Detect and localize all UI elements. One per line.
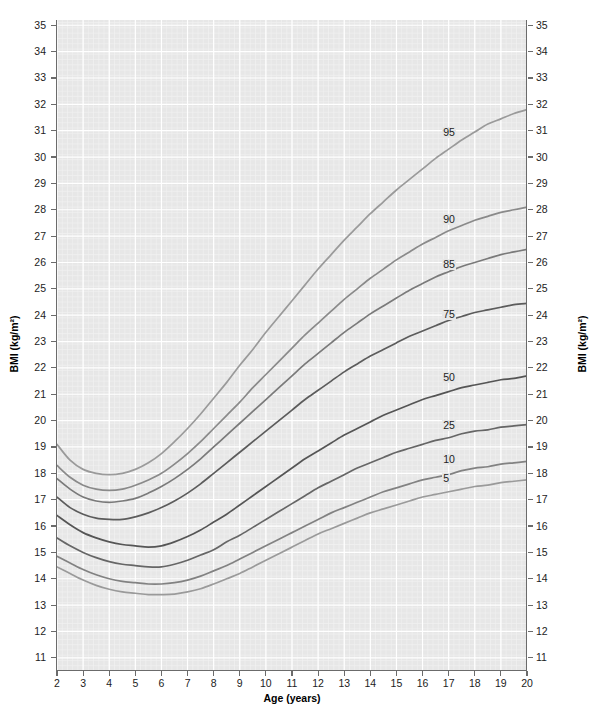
y-tick-right (528, 605, 533, 606)
y-tick-label-left: 20 (20, 415, 46, 425)
x-tick-label: 5 (124, 678, 146, 689)
x-tick-label: 2 (46, 678, 68, 689)
x-tick (135, 671, 136, 676)
percentile-label-25: 25 (442, 420, 456, 431)
y-tick-left (51, 367, 56, 368)
percentile-label-75: 75 (442, 309, 456, 320)
y-axis-left (56, 20, 57, 671)
y-tick-left (51, 156, 56, 157)
y-tick-label-right: 22 (536, 362, 562, 372)
y-tick-label-right: 18 (536, 468, 562, 478)
y-tick-left (51, 552, 56, 553)
y-tick-right (528, 394, 533, 395)
bmi-growth-chart: 1111121213131414151516161717181819192020… (0, 0, 596, 721)
y-tick-right (528, 315, 533, 316)
y-tick-label-right: 12 (536, 626, 562, 636)
x-tick-label: 18 (464, 678, 486, 689)
percentile-label-5: 5 (442, 473, 450, 484)
x-tick-label: 20 (516, 678, 538, 689)
y-tick-label-left: 32 (20, 99, 46, 109)
x-tick (265, 671, 266, 676)
y-tick-right (528, 236, 533, 237)
x-tick-label: 12 (307, 678, 329, 689)
y-tick-label-left: 13 (20, 600, 46, 610)
y-tick-right (528, 104, 533, 105)
y-tick-left (51, 130, 56, 131)
x-tick-label: 15 (385, 678, 407, 689)
y-tick-left (51, 394, 56, 395)
x-tick-label: 16 (412, 678, 434, 689)
x-tick-label: 19 (490, 678, 512, 689)
y-tick-label-left: 22 (20, 362, 46, 372)
y-tick-right (528, 341, 533, 342)
y-axis-right (526, 20, 527, 671)
x-tick-label: 10 (255, 678, 277, 689)
y-tick-right (528, 552, 533, 553)
x-tick (161, 671, 162, 676)
y-tick-right (528, 25, 533, 26)
y-tick-right (528, 156, 533, 157)
y-tick-label-right: 35 (536, 20, 562, 30)
y-tick-left (51, 209, 56, 210)
y-tick-label-left: 27 (20, 231, 46, 241)
y-tick-label-left: 21 (20, 389, 46, 399)
y-tick-label-right: 23 (536, 336, 562, 346)
x-tick-label: 9 (229, 678, 251, 689)
x-tick (213, 671, 214, 676)
y-tick-right (528, 578, 533, 579)
y-tick-left (51, 183, 56, 184)
y-axis-title-left: BMI (kg/m²) (8, 302, 20, 386)
x-tick (56, 671, 57, 676)
percentile-label-95: 95 (442, 127, 456, 138)
y-tick-right (528, 657, 533, 658)
y-tick-right (528, 130, 533, 131)
x-tick (370, 671, 371, 676)
y-tick-label-left: 23 (20, 336, 46, 346)
y-tick-left (51, 473, 56, 474)
x-tick (500, 671, 501, 676)
y-tick-left (51, 25, 56, 26)
x-tick (83, 671, 84, 676)
y-tick-left (51, 446, 56, 447)
y-tick-left (51, 631, 56, 632)
y-tick-left (51, 51, 56, 52)
y-tick-label-left: 18 (20, 468, 46, 478)
x-tick (344, 671, 345, 676)
y-tick-label-right: 20 (536, 415, 562, 425)
y-tick-left (51, 420, 56, 421)
y-tick-right (528, 525, 533, 526)
y-tick-label-left: 12 (20, 626, 46, 636)
y-tick-label-right: 19 (536, 441, 562, 451)
x-tick-label: 13 (333, 678, 355, 689)
y-tick-label-left: 14 (20, 573, 46, 583)
y-tick-label-right: 30 (536, 152, 562, 162)
x-tick (239, 671, 240, 676)
x-tick (422, 671, 423, 676)
y-tick-label-left: 35 (20, 20, 46, 30)
y-tick-label-right: 33 (536, 72, 562, 82)
percentile-curves (57, 20, 527, 671)
x-tick-label: 17 (438, 678, 460, 689)
y-tick-label-left: 26 (20, 257, 46, 267)
y-tick-label-right: 16 (536, 521, 562, 531)
percentile-label-50: 50 (442, 372, 456, 383)
x-tick (187, 671, 188, 676)
x-tick (448, 671, 449, 676)
y-tick-left (51, 288, 56, 289)
y-tick-left (51, 525, 56, 526)
y-tick-right (528, 473, 533, 474)
y-tick-label-left: 19 (20, 441, 46, 451)
y-axis-title-right: BMI (kg/m²) (576, 302, 588, 386)
y-tick-label-right: 32 (536, 99, 562, 109)
x-tick-label: 6 (150, 678, 172, 689)
x-tick (318, 671, 319, 676)
y-tick-label-left: 28 (20, 204, 46, 214)
y-tick-label-right: 21 (536, 389, 562, 399)
x-tick (109, 671, 110, 676)
y-tick-left (51, 341, 56, 342)
y-tick-right (528, 209, 533, 210)
y-tick-left (51, 605, 56, 606)
y-tick-label-right: 14 (536, 573, 562, 583)
x-tick-label: 3 (72, 678, 94, 689)
y-tick-label-right: 25 (536, 283, 562, 293)
